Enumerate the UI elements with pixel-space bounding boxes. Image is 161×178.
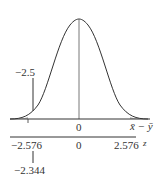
upper-axis-zero-label: 0	[76, 121, 82, 133]
z-right-critical-label: 2.576	[114, 139, 139, 151]
observed-value-label: −2.5	[15, 66, 35, 78]
normal-distribution-diagram: −2.5 0 x̄ − ȳ −2.576 0 2.576 z −2.344	[0, 0, 161, 178]
test-statistic-label: −2.344	[14, 164, 45, 176]
z-left-critical-label: −2.576	[11, 139, 42, 151]
upper-axis-variable-label: x̄ − ȳ	[129, 120, 154, 132]
z-zero-label: 0	[76, 139, 82, 151]
z-axis-variable-label: z	[142, 138, 147, 148]
